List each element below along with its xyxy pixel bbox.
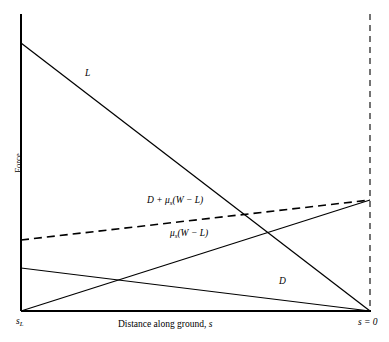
- x-axis-title-var: s: [209, 319, 213, 329]
- annotation-drag: D: [279, 277, 286, 287]
- x-tick-label-left: sL: [16, 317, 23, 328]
- annotation-total-tail: (W − L): [172, 195, 203, 205]
- chart-plot-area: [0, 0, 389, 342]
- annotation-total-prefix: D +: [147, 195, 165, 205]
- annotation-friction-tail: (W − L): [177, 228, 208, 238]
- x-tick-left-subscript: L: [20, 320, 24, 327]
- series-line-lift: [21, 43, 370, 311]
- figure-container: Force Distance along ground, s sL s = 0 …: [0, 0, 389, 342]
- series-line-drag: [21, 268, 370, 311]
- y-axis-title: Force: [13, 133, 23, 193]
- x-axis-title: Distance along ground, s: [118, 320, 212, 330]
- annotation-total-force: D + μs(W − L): [147, 196, 203, 207]
- x-axis-title-text: Distance along ground,: [118, 319, 209, 329]
- annotation-lift: L: [85, 69, 90, 79]
- annotation-friction-force: μs(W − L): [170, 229, 208, 240]
- x-tick-label-right: s = 0: [358, 318, 378, 328]
- series-line-friction: [21, 200, 370, 311]
